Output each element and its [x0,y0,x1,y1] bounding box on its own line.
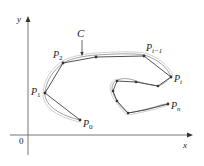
vertex-p-i [170,76,173,79]
vertex-p1 [44,92,47,95]
vertex-p-n [167,103,170,106]
vertex [127,112,130,115]
vertex [135,81,138,84]
vertex-p2 [62,62,65,65]
vertex [112,90,115,93]
x-axis-arrow-icon [187,133,193,138]
vertex [116,100,119,103]
curve-pointer-arrow-icon [80,52,83,56]
label-p-i: Pi [173,73,182,86]
axes: y x 0 [10,14,193,155]
label-p-i-minus-1: Pi−1 [145,42,162,55]
vertex-p-i-minus-1 [143,55,146,58]
point-labels: P0 P1 P2 Pi−1 Pi Pn [30,42,182,131]
label-p-n: Pn [170,100,181,113]
inscribed-polygon [45,56,171,120]
y-axis-label: y [16,14,21,24]
vertex [116,80,119,83]
polygon-approximation-diagram: y x 0 C P0 [0,0,204,166]
curve-label-group: C [77,27,85,56]
vertex-p0 [79,119,82,122]
origin-label: 0 [19,136,24,146]
label-p0: P0 [82,118,93,131]
y-axis-arrow-icon [26,16,31,22]
x-axis-label: x [182,140,187,150]
label-p1: P1 [30,86,41,99]
curve-label: C [77,27,85,39]
vertex [95,56,98,59]
label-p2: P2 [52,49,63,62]
vertex [157,85,160,88]
polygon-vertices [44,55,173,122]
